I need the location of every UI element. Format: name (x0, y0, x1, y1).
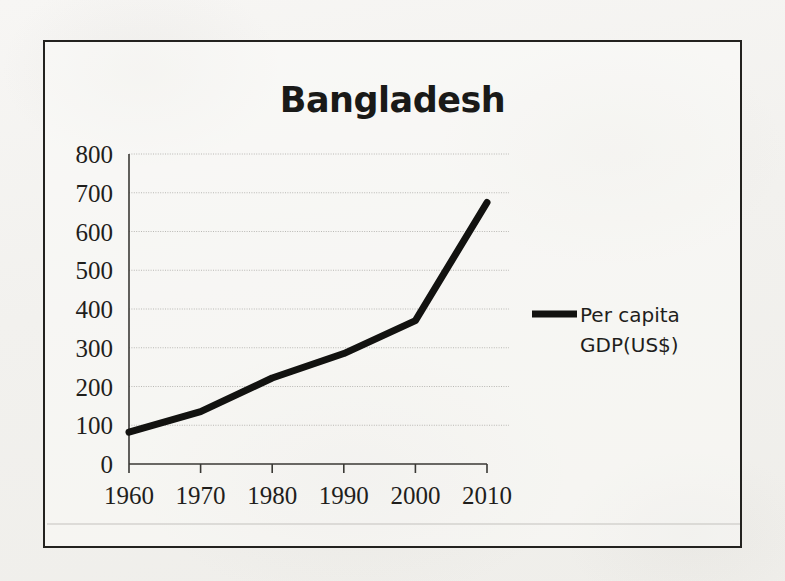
chart-legend: Per capitaGDP(US$) (532, 303, 680, 357)
x-tick-label: 2010 (462, 482, 512, 509)
x-tick-label: 2000 (390, 482, 440, 509)
legend-label-line2: GDP(US$) (580, 333, 679, 357)
y-tick-label: 800 (76, 141, 114, 168)
y-tick-label: 200 (76, 374, 114, 401)
y-tick-label: 0 (101, 451, 114, 478)
chart-plot-area: 8007006005004003002001000 19601970198019… (45, 42, 744, 550)
x-tick-label: 1960 (104, 482, 154, 509)
x-tick-label: 1990 (319, 482, 369, 509)
x-tick-label: 1980 (247, 482, 297, 509)
y-tick-label: 100 (76, 412, 114, 439)
chart-frame: Bangladesh 8007006005004003002001000 196… (43, 40, 742, 548)
y-tick-label: 500 (76, 257, 114, 284)
x-tick-label: 1970 (176, 482, 226, 509)
x-axis-tick-labels: 196019701980199020002010 (104, 482, 512, 509)
data-series-group (129, 202, 487, 432)
y-tick-label: 300 (76, 335, 114, 362)
gridlines-group (129, 154, 509, 425)
data-line-per-capita-gdp-us- (129, 202, 487, 432)
legend-label-line1: Per capita (580, 303, 680, 327)
y-tick-label: 700 (76, 180, 114, 207)
y-tick-label: 400 (76, 296, 114, 323)
y-axis-tick-labels: 8007006005004003002001000 (76, 141, 114, 478)
y-tick-label: 600 (76, 219, 114, 246)
